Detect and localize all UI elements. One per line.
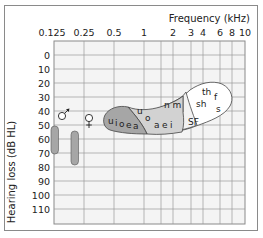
phoneme-label: SF xyxy=(188,117,199,127)
x-tick: 0.125 xyxy=(38,27,65,38)
x-tick: 0.25 xyxy=(73,27,94,38)
x-tick: 6 xyxy=(217,27,223,38)
x-tick: 3 xyxy=(188,27,194,38)
phoneme-label: u xyxy=(137,106,143,116)
y-tick: 0 xyxy=(44,50,50,61)
male-voice-range-bar xyxy=(51,126,59,154)
phoneme-label: u xyxy=(108,116,114,126)
y-axis-title: Hearing loss (dB HL) xyxy=(6,121,17,223)
phoneme-label: o xyxy=(119,119,125,129)
phoneme-label: sh xyxy=(196,99,206,109)
x-tick: 10 xyxy=(239,27,251,38)
y-tick: 20 xyxy=(38,78,50,89)
y-tick: 10 xyxy=(38,64,50,75)
phoneme-label: a xyxy=(133,121,139,131)
x-axis-title: Frequency (kHz) xyxy=(169,13,250,24)
x-tick: 8 xyxy=(229,27,235,38)
y-tick: 80 xyxy=(38,162,50,173)
x-tick: 2 xyxy=(170,27,176,38)
x-tick-labels: 0.125 0.25 0.5 1 2 3 4 6 8 10 xyxy=(38,27,251,38)
phoneme-label: n m xyxy=(164,100,181,110)
phoneme-label: s xyxy=(216,104,221,114)
phoneme-label: e xyxy=(126,120,132,130)
x-tick: 4 xyxy=(200,27,206,38)
phoneme-label: th xyxy=(202,87,211,97)
phoneme-label: i xyxy=(115,118,118,128)
y-tick: 100 xyxy=(32,190,50,201)
y-tick-labels: 0 10 20 30 40 50 60 70 80 90 100 110 xyxy=(32,50,50,215)
phoneme-label: i xyxy=(170,120,173,130)
female-voice-range-bar xyxy=(71,131,79,165)
phoneme-label: a xyxy=(154,120,160,130)
phoneme-label: o xyxy=(145,113,151,123)
y-tick: 110 xyxy=(32,204,50,215)
x-tick: 1 xyxy=(141,27,147,38)
audiogram-chart: Frequency (kHz) 0.125 0.25 0.5 1 2 3 4 6… xyxy=(0,0,263,238)
x-tick: 0.5 xyxy=(106,27,121,38)
y-tick: 50 xyxy=(38,120,50,131)
y-tick: 30 xyxy=(38,92,50,103)
y-tick: 40 xyxy=(38,106,50,117)
y-tick: 60 xyxy=(38,134,50,145)
phoneme-label: e xyxy=(162,120,168,130)
y-tick: 70 xyxy=(38,148,50,159)
y-tick: 90 xyxy=(38,176,50,187)
